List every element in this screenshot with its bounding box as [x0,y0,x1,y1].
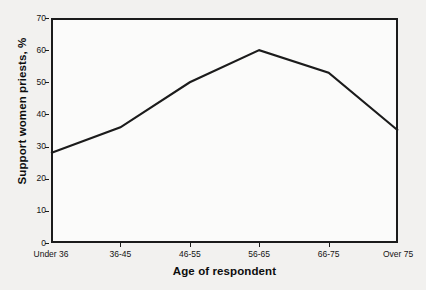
x-axis-tick-label: Over 75 [383,249,413,259]
y-axis-tick-label: 40 [26,110,46,119]
y-axis-tick-label: 50 [26,78,46,87]
x-axis-tick-label: 56-65 [248,249,270,259]
x-axis-tick-label: 66-75 [318,249,340,259]
x-axis-tickmark [190,243,191,247]
line-chart-figure: 706050403020100 Under 3636-4546-5556-656… [0,0,426,290]
x-axis-tick-label: 36-45 [110,249,132,259]
x-axis-tickmark [329,243,330,247]
series-line-support-women-priests [51,50,398,153]
y-axis-tickmark [45,179,49,180]
y-axis-tickmark [45,147,49,148]
y-axis-tickmark [45,211,49,212]
y-axis-tickmark [45,50,49,51]
y-axis-tickmark [45,82,49,83]
data-line-layer [51,18,398,243]
y-axis-title: Support women priests, % [16,16,28,206]
y-axis-tick-label: 60 [26,46,46,55]
y-axis-tick-label: 0 [26,239,46,248]
y-axis-tick-label: 70 [26,14,46,23]
x-axis-tick-label: 46-55 [179,249,201,259]
y-axis-tick-label: 10 [26,206,46,215]
x-axis-title: Age of respondent [51,265,398,277]
x-axis-tickmark [259,243,260,247]
x-axis-tick-label: Under 36 [34,249,69,259]
y-axis-tickmark [45,243,49,244]
x-axis-tickmark [120,243,121,247]
y-axis-tickmark [45,18,49,19]
x-axis-tick-group: Under 3636-4546-5556-6566-75Over 75 [0,249,426,263]
y-axis-tickmark [45,114,49,115]
y-axis-tick-label: 20 [26,174,46,183]
y-axis-tick-label: 30 [26,142,46,151]
